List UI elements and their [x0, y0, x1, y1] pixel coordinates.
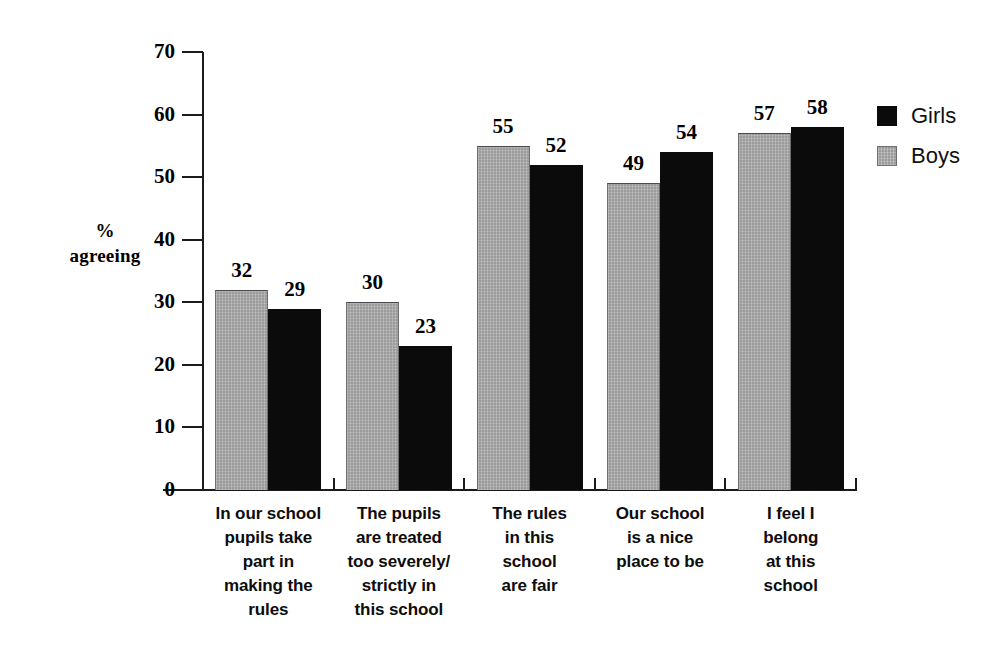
legend-item-girls[interactable]: Girls	[877, 96, 995, 136]
bar-value-label: 54	[650, 122, 723, 143]
bar-girls-1	[268, 309, 321, 490]
y-axis-tick-label: 20	[120, 354, 175, 375]
plot-area: 32293023555249545758	[203, 52, 857, 490]
category-label-line: part in	[197, 550, 340, 574]
bar-boys-3	[477, 146, 530, 490]
bar-boys-1	[215, 290, 268, 490]
bar-value-label: 30	[336, 272, 409, 293]
y-axis-tick	[182, 426, 203, 428]
y-axis-tick	[182, 364, 203, 366]
category-label-line: belong	[719, 526, 862, 550]
bar-value-label: 52	[520, 135, 593, 156]
category-label-line: The pupils	[328, 502, 471, 526]
category-label-4: Our schoolis a niceplace to be	[589, 502, 732, 574]
y-axis-tick	[182, 489, 203, 491]
y-axis-tick	[182, 239, 203, 241]
legend-swatch-icon	[877, 106, 897, 126]
bar-boys-4	[607, 183, 660, 490]
y-axis-tick	[182, 51, 203, 53]
bar-value-label: 58	[781, 97, 854, 118]
category-label-line: making the	[197, 574, 340, 598]
category-label-line: strictly in	[328, 574, 471, 598]
bar-value-label: 23	[389, 316, 462, 337]
category-label-line: rules	[197, 598, 340, 622]
category-label-3: The rulesin thisschoolare fair	[458, 502, 601, 598]
legend-label: Boys	[911, 145, 960, 167]
legend-label: Girls	[911, 105, 956, 127]
category-label-2: The pupilsare treatedtoo severely/strict…	[328, 502, 471, 622]
category-label-line: are fair	[458, 574, 601, 598]
y-axis-tick	[182, 114, 203, 116]
category-label-line: In our school	[197, 502, 340, 526]
bar-girls-3	[530, 165, 583, 490]
y-axis-tick-label: 0	[120, 479, 175, 500]
legend: GirlsBoys	[877, 96, 995, 176]
category-label-5: I feel Ibelongat thisschool	[719, 502, 862, 598]
y-axis-tick-label: 50	[120, 166, 175, 187]
y-axis-tick-label: 40	[120, 229, 175, 250]
y-axis-tick-label: 30	[120, 291, 175, 312]
y-axis-tick-label: 60	[120, 104, 175, 125]
y-axis-tick	[182, 301, 203, 303]
category-label-line: place to be	[589, 550, 732, 574]
legend-item-boys[interactable]: Boys	[877, 136, 995, 176]
bar-girls-5	[791, 127, 844, 490]
bar-boys-5	[738, 133, 791, 490]
legend-swatch-icon	[877, 146, 897, 166]
y-axis-tick-label: 10	[120, 416, 175, 437]
category-label-line: this school	[328, 598, 471, 622]
y-axis-tick	[182, 176, 203, 178]
category-label-line: is a nice	[589, 526, 732, 550]
bar-chart: % agreeing 706050403020100 3229302355524…	[0, 0, 999, 663]
y-axis-tick-label: 70	[120, 41, 175, 62]
category-label-line: at this	[719, 550, 862, 574]
bar-girls-2	[399, 346, 452, 490]
bar-value-label: 29	[258, 279, 331, 300]
category-label-1: In our schoolpupils takepart inmaking th…	[197, 502, 340, 622]
category-label-line: too severely/	[328, 550, 471, 574]
category-label-line: I feel I	[719, 502, 862, 526]
category-label-line: school	[458, 550, 601, 574]
category-label-line: in this	[458, 526, 601, 550]
category-label-line: pupils take	[197, 526, 340, 550]
category-label-line: are treated	[328, 526, 471, 550]
category-label-line: school	[719, 574, 862, 598]
bar-girls-4	[660, 152, 713, 490]
category-label-line: The rules	[458, 502, 601, 526]
category-label-line: Our school	[589, 502, 732, 526]
